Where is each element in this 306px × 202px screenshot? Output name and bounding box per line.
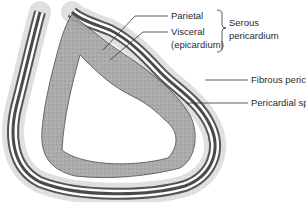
- label-parietal: Parietal: [171, 10, 203, 21]
- pericardium-diagram: Parietal Visceral (epicardium) Serous pe…: [0, 0, 306, 202]
- label-pericardial-space: Pericardial space: [251, 97, 306, 108]
- label-serous-line1: Serous: [229, 17, 259, 28]
- label-serous-line2: pericardium: [229, 30, 279, 41]
- label-epicardium: (epicardium): [171, 39, 224, 50]
- label-visceral: Visceral: [171, 26, 205, 37]
- label-fibrous-pericardium: Fibrous pericardium: [251, 74, 306, 85]
